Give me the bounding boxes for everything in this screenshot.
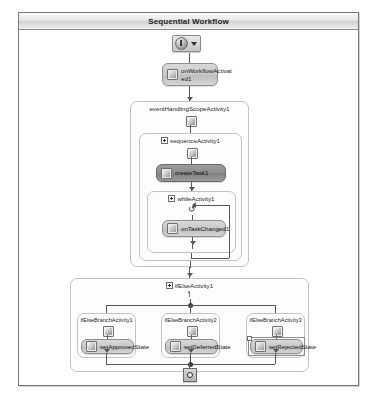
container-header: ifElseActivity1: [71, 282, 308, 290]
expander-icon[interactable]: [161, 137, 168, 144]
activity-createtask1[interactable]: createTask1: [156, 164, 226, 182]
arrow-head-loopback: [192, 202, 196, 208]
connector-while-exit: [191, 253, 192, 259]
connector-sequence-exit: [190, 261, 191, 268]
container-ifelseactivity1[interactable]: ifElseActivity1 ↿ ifElseBranchActivity1 …: [70, 278, 309, 372]
connector-loopback-right: [229, 205, 230, 258]
designer-title-bar: Sequential Workflow: [19, 13, 358, 30]
activity-label: createTask1: [172, 169, 210, 176]
workflow-designer-surface[interactable]: Sequential Workflow onWorkflowActivat ed…: [18, 12, 359, 386]
branch-condition-icon[interactable]: [272, 326, 283, 337]
connector-branch3-merge: [275, 353, 276, 364]
chevron-down-icon[interactable]: [191, 42, 197, 46]
activity-ontaskchanged1[interactable]: onTaskChanged1: [162, 220, 226, 237]
container-header: ifElseBranchActivity3: [247, 317, 304, 323]
container-header: ifElseBranchActivity2: [162, 317, 219, 323]
connector-branch1-merge: [106, 353, 107, 364]
connector-scope-inner: [190, 125, 191, 133]
container-whileactivity1[interactable]: whileActivity1 ↺ onTaskChanged1: [147, 191, 236, 253]
container-label: whileActivity1: [177, 195, 214, 202]
ifelse-condition-icon: ↿: [186, 290, 193, 299]
connector-loopback-top: [196, 205, 229, 206]
container-label: ifElseBranchActivity3: [249, 317, 301, 323]
workflow-start-dropdown[interactable]: [172, 35, 201, 52]
arrow-head: [104, 349, 110, 353]
sequence-handler-icon[interactable]: [187, 148, 198, 159]
arrow-head: [188, 349, 194, 353]
event-icon: [167, 223, 178, 234]
branch-condition-icon[interactable]: [103, 326, 114, 337]
state-icon: [86, 341, 97, 352]
page-title: Sequential Workflow: [148, 17, 228, 26]
connector-start-to-onworkflowactivated: [189, 53, 190, 63]
task-icon: [161, 168, 172, 179]
connector-branch2-drop: [190, 305, 191, 313]
container-label: eventHandlingScopeActivity1: [149, 105, 229, 112]
branch-condition-icon[interactable]: [187, 326, 198, 337]
connector-sequence-inner: [191, 157, 192, 164]
container-label: ifElseBranchActivity1: [80, 317, 132, 323]
container-label: sequenceActivity1: [170, 137, 220, 144]
connector-loopback-bottom: [191, 258, 229, 259]
arrow-head: [273, 349, 279, 353]
expander-icon[interactable]: [168, 195, 175, 202]
workflow-end-node[interactable]: [183, 368, 197, 382]
arrow-head: [187, 273, 193, 277]
arrow-head: [190, 241, 196, 245]
state-icon: [255, 341, 266, 352]
start-icon: [175, 37, 188, 50]
expander-icon[interactable]: [166, 282, 173, 289]
connector-branch3-drop: [275, 305, 276, 313]
scope-handler-icon[interactable]: [186, 116, 197, 127]
activity-label: onTaskChanged1: [178, 225, 231, 232]
container-header: sequenceActivity1: [140, 137, 241, 145]
state-icon: [170, 341, 181, 352]
container-label: ifElseActivity1: [175, 282, 213, 289]
container-sequenceactivity1[interactable]: sequenceActivity1 createTask1 whileActiv…: [139, 133, 242, 261]
activity-onworkflowactivated1[interactable]: onWorkflowActivat ed1: [162, 63, 218, 86]
container-header: eventHandlingScopeActivity1: [131, 105, 248, 112]
activity-label: onWorkflowActivat ed1: [178, 67, 234, 82]
gear-icon: [167, 69, 178, 80]
stop-icon: [187, 372, 193, 378]
container-eventhandlingscopeactivity1[interactable]: eventHandlingScopeActivity1 sequenceActi…: [130, 101, 249, 267]
workflow-canvas[interactable]: onWorkflowActivat ed1 eventHandlingScope…: [19, 30, 358, 386]
container-header: ifElseBranchActivity1: [78, 317, 135, 323]
container-label: ifElseBranchActivity2: [164, 317, 216, 323]
connector-branch1-drop: [106, 305, 107, 313]
